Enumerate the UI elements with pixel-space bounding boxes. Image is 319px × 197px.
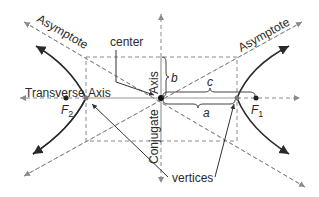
brace-a [163, 100, 235, 108]
b-label: b [171, 71, 178, 85]
hyperbola-diagram: Asymptote Asymptote center Transverse Ax… [0, 0, 319, 197]
c-label: c [207, 75, 213, 89]
conjugate-label: Conjugate [147, 109, 161, 164]
transverse-axis-label: Axis [88, 86, 111, 100]
transverse-label: Transverse [25, 86, 85, 100]
brace-b [162, 57, 169, 97]
focus-f2-label: F2 [61, 103, 73, 119]
asymptote-left-label: Asymptote [35, 11, 91, 52]
focus-f1-label: F1 [251, 103, 263, 119]
center-label: center [110, 35, 143, 49]
vertices-label: vertices [172, 171, 213, 185]
hyperbola-left-branch [33, 46, 86, 154]
conjugate-axis-label: Axis [147, 71, 161, 94]
a-label: a [203, 106, 210, 120]
vertex-right [235, 96, 240, 101]
focus-f1 [254, 96, 259, 101]
